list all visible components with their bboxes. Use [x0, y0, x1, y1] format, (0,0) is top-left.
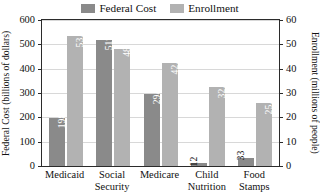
y-axis-right-tick-label: 20	[286, 112, 296, 122]
bar-federal-cost[interactable]: 198	[49, 118, 65, 166]
bar-federal-cost[interactable]: 12	[191, 163, 207, 166]
y-axis-left-tick-label: 300	[19, 88, 35, 98]
y-axis-left-tick-label: 500	[19, 39, 35, 49]
bar-value-label: 12	[189, 156, 199, 166]
bar-value-label: 42.3	[170, 58, 180, 75]
y-axis-right-tick	[279, 44, 283, 45]
category-label-line: Stamps	[223, 181, 285, 193]
bar-value-label: 519	[104, 36, 114, 50]
y-axis-right-tick-label: 30	[286, 88, 296, 98]
x-axis-category-label: FoodStamps	[223, 169, 285, 192]
y-axis-left-tick-label: 400	[19, 64, 35, 74]
y-axis-right-tick	[279, 117, 283, 118]
category-label-line: Security	[81, 181, 143, 193]
legend-entry-federal-cost: Federal Cost	[81, 3, 156, 14]
y-axis-left-title: Federal Cost (billions of dollars)	[1, 19, 11, 167]
bar-value-label: 198	[57, 114, 67, 128]
legend-label-federal-cost: Federal Cost	[99, 3, 156, 14]
bar-value-label: 48	[122, 47, 132, 57]
bar-group: 19853.4	[47, 20, 85, 166]
bar-enrollment[interactable]: 25.7	[256, 103, 272, 166]
plot-area: 0100200300400500600 0102030405060 19853.…	[41, 19, 280, 167]
y-axis-right-tick-label: 0	[286, 161, 291, 171]
legend-label-enrollment: Enrollment	[188, 3, 238, 14]
bar-value-label: 53.4	[75, 31, 85, 48]
y-axis-left-tick-label: 200	[19, 112, 35, 122]
y-axis-left-tick	[38, 166, 42, 167]
bar-enrollment[interactable]: 32.3	[209, 87, 225, 166]
bar-value-label: 294	[152, 90, 162, 104]
y-axis-right-tick-label: 60	[286, 15, 296, 25]
y-axis-right-tick	[279, 142, 283, 143]
y-axis-right-tick-label: 40	[286, 64, 296, 74]
y-axis-right-tick	[279, 93, 283, 94]
y-axis-left-tick-label: 100	[19, 137, 35, 147]
x-axis-category-labels: MedicaidSocialSecurityMedicareChildNutri…	[41, 169, 280, 194]
bar-federal-cost[interactable]: 33	[238, 158, 254, 166]
bar-group: 3325.7	[236, 20, 274, 166]
category-label-line: Food	[223, 169, 285, 181]
legend-swatch-icon	[81, 4, 95, 13]
chart-page: Federal Cost Enrollment Federal Cost (bi…	[0, 0, 320, 194]
bar-group: 29442.3	[142, 20, 180, 166]
bar-value-label: 25.7	[264, 98, 274, 115]
bar-federal-cost[interactable]: 519	[96, 40, 112, 166]
bar-enrollment[interactable]: 42.3	[162, 63, 178, 166]
bar-enrollment[interactable]: 53.4	[67, 36, 83, 166]
y-axis-right-title: Enrollment (millions of people)	[310, 19, 320, 167]
bar-value-label: 33	[237, 151, 247, 161]
legend-swatch-icon	[170, 4, 184, 13]
y-axis-right-tick	[279, 166, 283, 167]
bar-enrollment[interactable]: 48	[114, 49, 130, 166]
legend-entry-enrollment: Enrollment	[170, 3, 238, 14]
bar-group: 1232.3	[189, 20, 227, 166]
y-axis-right-tick-label: 50	[286, 39, 296, 49]
y-axis-right-tick	[279, 69, 283, 70]
y-axis-right-tick	[279, 20, 283, 21]
y-axis-right-tick-label: 10	[286, 137, 296, 147]
bar-group: 51948	[94, 20, 132, 166]
y-axis-left-tick-label: 600	[19, 15, 35, 25]
chart-legend: Federal Cost Enrollment	[0, 1, 320, 17]
bar-federal-cost[interactable]: 294	[144, 94, 160, 166]
bar-groups: 19853.45194829442.31232.33325.7	[42, 20, 279, 166]
bar-value-label: 32.3	[217, 82, 227, 99]
